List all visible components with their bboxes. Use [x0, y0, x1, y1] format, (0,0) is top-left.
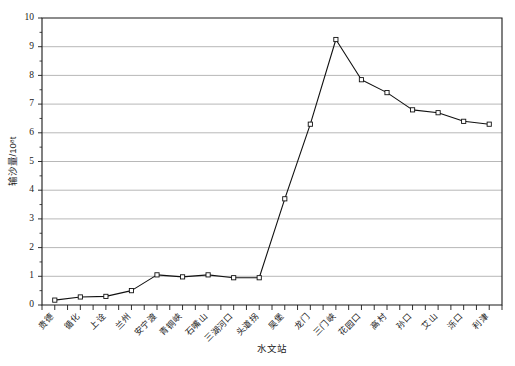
- x-tick-label: 艾山: [420, 311, 440, 331]
- y-tick-label: 4: [29, 184, 34, 194]
- x-tick-label: 兰州: [112, 311, 133, 332]
- x-tick-label: 花园口: [336, 311, 363, 338]
- data-point-marker: [180, 275, 184, 279]
- gridlines-group: [42, 47, 502, 277]
- x-axis-title: 水文站: [257, 343, 287, 354]
- y-tick-label: 9: [29, 41, 34, 51]
- x-tick-label: 安宁渡: [132, 311, 159, 338]
- data-point-marker: [436, 111, 440, 115]
- x-tick-label: 孙口: [393, 311, 414, 332]
- data-point-marker: [206, 273, 210, 277]
- x-tick-labels-group: 贵德循化上诠兰州安宁渡青铜峡石嘴山三湖河口头道拐吴堡龙门三门峡花园口高村孙口艾山…: [36, 311, 491, 344]
- series-line: [55, 40, 489, 301]
- y-tick-label: 10: [25, 12, 35, 22]
- data-point-marker: [410, 108, 414, 112]
- x-tick-label: 三湖河口: [202, 311, 235, 344]
- x-tick-label: 三门峡: [310, 311, 337, 338]
- data-point-marker: [487, 122, 491, 126]
- x-tick-label: 循化: [61, 311, 82, 332]
- x-tick-label: 泺口: [445, 311, 466, 332]
- y-tick-label: 0: [29, 299, 34, 309]
- x-tick-label: 龙门: [291, 311, 312, 332]
- data-point-marker: [334, 37, 338, 41]
- data-point-marker: [257, 276, 261, 280]
- data-point-marker: [232, 276, 236, 280]
- data-point-marker: [359, 78, 363, 82]
- y-tick-label: 8: [29, 70, 34, 80]
- chart-container: 012345678910 贵德循化上诠兰州安宁渡青铜峡石嘴山三湖河口头道拐吴堡龙…: [0, 0, 515, 366]
- data-markers-group: [53, 37, 492, 302]
- data-point-marker: [462, 119, 466, 123]
- x-tick-label: 青铜峡: [157, 311, 184, 338]
- data-point-marker: [78, 295, 82, 299]
- x-tick-label: 吴堡: [266, 311, 286, 331]
- data-point-marker: [155, 273, 159, 277]
- data-point-marker: [385, 91, 389, 95]
- data-point-marker: [129, 289, 133, 293]
- y-tick-marks-group: [38, 18, 42, 305]
- sediment-load-line-chart: 012345678910 贵德循化上诠兰州安宁渡青铜峡石嘴山三湖河口头道拐吴堡龙…: [0, 0, 515, 366]
- x-tick-label: 头道拐: [234, 311, 261, 338]
- y-tick-label: 1: [29, 270, 34, 280]
- x-tick-label: 利津: [470, 311, 491, 332]
- data-point-marker: [104, 294, 108, 298]
- y-tick-label: 2: [29, 242, 34, 252]
- y-tick-label: 6: [29, 127, 34, 137]
- data-point-marker: [283, 197, 287, 201]
- x-tick-label: 上诠: [87, 311, 108, 332]
- data-point-marker: [308, 122, 312, 126]
- y-tick-label: 3: [29, 213, 34, 223]
- y-tick-label: 7: [29, 98, 34, 108]
- data-point-marker: [53, 298, 57, 302]
- x-tick-label: 贵德: [36, 311, 57, 332]
- x-tick-label: 高村: [368, 311, 389, 332]
- y-tick-labels-group: 012345678910: [25, 12, 35, 309]
- series-line-group: [55, 40, 489, 301]
- x-tick-marks-group: [42, 305, 502, 310]
- y-axis-title: 输沙量/10⁸t: [7, 136, 18, 186]
- y-tick-label: 5: [29, 156, 34, 166]
